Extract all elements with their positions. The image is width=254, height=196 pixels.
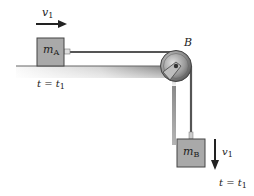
velocity-label-a: v1 (42, 6, 53, 20)
pulley-b (161, 51, 192, 82)
pulley-diagram (0, 0, 254, 196)
mass-label-b: mB (183, 145, 199, 159)
rope-connector-b (189, 132, 193, 139)
velocity-arrow-b (211, 139, 219, 170)
time-label-a: t = t1 (37, 78, 65, 91)
velocity-label-b: v1 (222, 146, 233, 159)
velocity-arrow-a (36, 20, 67, 28)
pulley-label-b: B (184, 36, 192, 49)
mass-label-a: mA (43, 43, 59, 57)
rope-connector-a (64, 49, 70, 54)
time-label-b: t = t1 (219, 177, 247, 190)
